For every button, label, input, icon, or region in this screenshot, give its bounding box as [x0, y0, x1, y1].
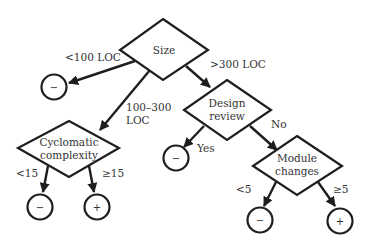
- leaf-label: −: [256, 215, 264, 226]
- edge-label-review-yes: Yes: [196, 142, 215, 154]
- edge-cc-high: [89, 166, 94, 192]
- edge-label-size-medium-line2: LOC: [126, 114, 150, 126]
- node-label-line1: Module: [277, 152, 317, 164]
- node-label-line1: Design: [209, 97, 246, 109]
- edge-label-cc-low: <15: [16, 167, 38, 179]
- decision-tree-diagram: Size Cyclomatic complexity Design review…: [0, 0, 371, 250]
- node-label-line2: changes: [275, 165, 319, 177]
- leaf-label: −: [172, 153, 180, 164]
- node-size: Size: [120, 19, 208, 80]
- edge-label-mc-high: ≥5: [333, 183, 348, 195]
- node-label-line1: Cyclomatic: [39, 136, 98, 148]
- leaf-mc-low: −: [248, 208, 273, 233]
- leaf-label: +: [336, 216, 344, 227]
- edge-size-large: [186, 66, 210, 87]
- edge-label-size-large: >300 LOC: [210, 58, 266, 70]
- leaf-label: +: [93, 202, 101, 213]
- leaf-cc-high: +: [85, 195, 110, 220]
- edge-size-small: [69, 61, 135, 83]
- edge-cc-low: [43, 166, 48, 192]
- edge-mc-low: [264, 182, 276, 206]
- leaf-review-yes: −: [164, 146, 189, 171]
- node-label-line2: review: [209, 110, 245, 122]
- node-module-changes: Module changes: [253, 136, 342, 195]
- leaf-cc-low: −: [28, 195, 53, 220]
- edge-label-cc-high: ≥15: [102, 167, 124, 179]
- leaf-small-size: −: [42, 75, 67, 100]
- node-label: Size: [153, 44, 175, 56]
- edge-label-mc-low: <5: [236, 183, 251, 195]
- edge-label-review-no: No: [271, 118, 287, 130]
- leaf-label: −: [50, 82, 58, 93]
- node-label-line2: complexity: [40, 149, 98, 161]
- node-design-review: Design review: [184, 80, 271, 140]
- leaf-mc-high: +: [328, 209, 353, 234]
- edge-label-size-medium-line1: 100–300: [126, 101, 171, 113]
- edge-label-size-small: <100 LOC: [65, 51, 121, 63]
- leaf-label: −: [36, 202, 44, 213]
